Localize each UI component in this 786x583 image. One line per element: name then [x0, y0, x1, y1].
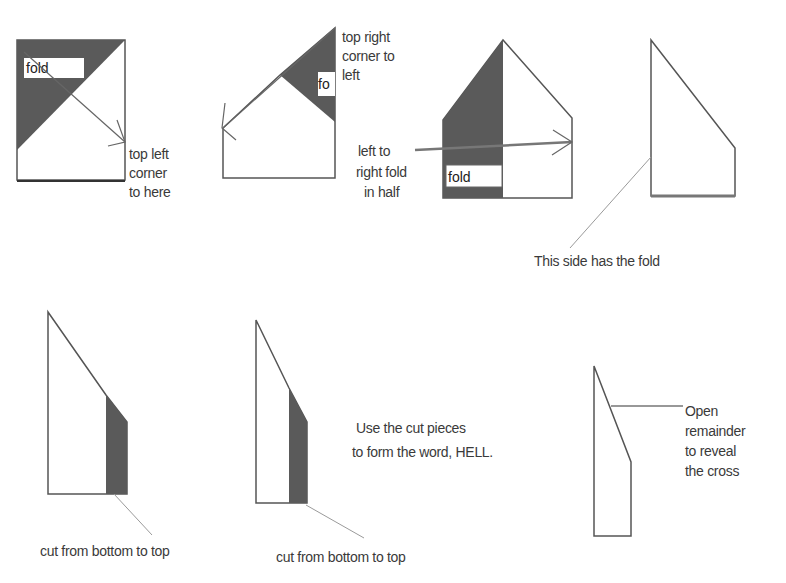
step-6: cut from bottom to top Use the cut piece… — [256, 320, 493, 565]
step-1-caption: top left corner to here — [129, 146, 172, 200]
step-2-caption: top right corner to left — [342, 29, 398, 83]
step-5-caption: cut from bottom to top — [40, 543, 170, 559]
step-1-box-label: fold — [26, 60, 49, 76]
step-4-caption: This side has the fold — [534, 253, 660, 269]
step-7: Open remainder to reveal the cross — [594, 366, 749, 536]
step-1: fold top left corner to here — [17, 40, 172, 200]
step-7-caption: Open remainder to reveal the cross — [685, 403, 749, 479]
step-3-box-label: fold — [448, 169, 471, 185]
step-3: fold left to right fold in half — [356, 40, 572, 200]
step-6-caption: cut from bottom to top — [276, 549, 406, 565]
step-2-box-label: fo — [318, 76, 330, 92]
step-3-caption: left to right fold in half — [356, 143, 410, 200]
step-6-note: Use the cut pieces to form the word, HEL… — [352, 420, 493, 460]
folding-diagram: fold top left corner to here fo top righ… — [0, 0, 786, 583]
step-5: cut from bottom to top — [40, 312, 170, 559]
